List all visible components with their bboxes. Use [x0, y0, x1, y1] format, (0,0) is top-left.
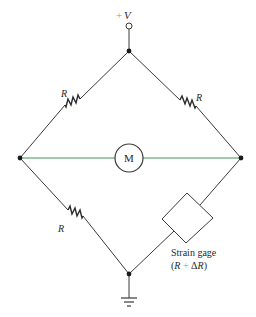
supply-voltage-label: V	[124, 9, 132, 21]
resistor-upper-left-label: R	[60, 88, 67, 99]
resistor-upper-right	[129, 51, 241, 158]
resistor-lower-left-label: R	[57, 223, 64, 234]
supply-plus-label: +	[116, 9, 122, 21]
supply-terminal	[126, 23, 132, 29]
strain-gage-value-label: (R + ΔR)	[171, 260, 207, 272]
resistor-upper-right-label: R	[195, 92, 202, 103]
meter-label: M	[124, 152, 134, 164]
node-top	[127, 49, 132, 54]
resistor-lower-left	[20, 158, 129, 274]
strain-gage-label: Strain gage	[171, 247, 217, 258]
node-right	[239, 156, 244, 161]
node-left	[18, 156, 23, 161]
resistor-upper-left	[20, 51, 129, 158]
wheatstone-bridge-diagram: + V R R R Strain gage (R + ΔR) M	[0, 0, 256, 317]
ground-icon	[121, 298, 137, 306]
node-bottom	[127, 272, 132, 277]
